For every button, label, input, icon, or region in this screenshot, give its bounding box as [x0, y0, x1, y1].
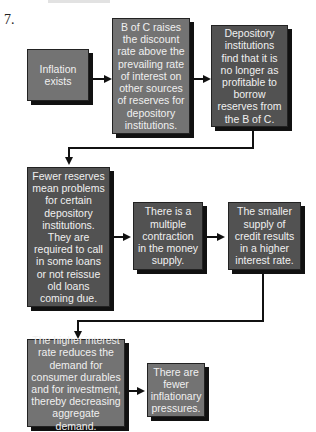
box-text: B of C raises the discount rate above th…	[116, 21, 186, 131]
box-text: Fewer reserves mean problems for certain…	[31, 170, 106, 304]
arrow-right-icon	[203, 75, 211, 83]
box-smaller-supply: The smaller supply of credit results in …	[228, 202, 301, 270]
problem-number: 7.	[4, 12, 15, 28]
arrow-right-icon	[217, 233, 225, 241]
arrow-right-icon	[123, 233, 131, 241]
box-fewer-pressures: There are fewer inflationary pressures.	[147, 363, 205, 417]
box-text: Depository institutions find that it is …	[215, 27, 284, 125]
cropped-text-fragment	[48, 0, 110, 3]
arrow-right-icon	[104, 75, 112, 83]
connector-horizontal	[68, 147, 254, 149]
box-text: There is a multiple contraction in the m…	[137, 205, 199, 266]
box-higher-interest: The higher interest rate reduces the dem…	[27, 339, 125, 427]
box-boc-raises-rate: B of C raises the discount rate above th…	[112, 18, 190, 134]
box-inflation-exists: Inflation exists	[27, 49, 89, 101]
box-text: The higher interest rate reduces the dem…	[31, 334, 121, 432]
box-multiple-contraction: There is a multiple contraction in the m…	[133, 202, 203, 270]
box-text: The smaller supply of credit results in …	[232, 205, 297, 266]
connector-down	[68, 147, 70, 157]
connector-horizontal	[77, 320, 264, 322]
box-text: There are fewer inflationary pressures.	[151, 366, 202, 415]
connector-vertical	[262, 274, 264, 322]
arrow-right-icon	[137, 387, 145, 395]
box-depository-find: Depository institutions find that it is …	[211, 25, 288, 127]
box-text: Inflation exists	[31, 63, 85, 87]
box-fewer-reserves: Fewer reserves mean problems for certain…	[27, 167, 110, 307]
arrow-down-icon	[65, 157, 73, 165]
